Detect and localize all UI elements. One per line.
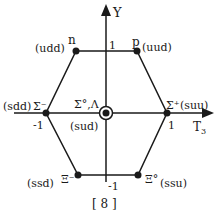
center-dot: [103, 110, 110, 117]
neutron-symbol: n: [68, 33, 76, 47]
xi-zero-symbol: Ξ°: [145, 173, 158, 186]
xi-minus-symbol: Ξ⁻: [61, 173, 75, 186]
tick-y-pos: 1: [109, 39, 116, 52]
y-axis-label: Y: [112, 5, 122, 20]
xi-minus-dot: [75, 172, 82, 179]
sigma-plus-symbol: Σ⁺: [166, 99, 180, 112]
tick-x-pos: 1: [168, 119, 175, 132]
sigma-zero-lambda-symbol: Σ°,Λ: [74, 98, 100, 111]
tick-y-neg: -1: [108, 180, 119, 193]
neutron-dot: [73, 48, 80, 55]
tick-x-neg: -1: [33, 119, 44, 132]
sigma-minus-symbol: Σ⁻: [33, 100, 47, 113]
sigma-plus-quarks: (suu): [180, 99, 208, 112]
xi-zero-dot: [135, 172, 142, 179]
sigma-minus-quarks: (sdd): [3, 100, 31, 113]
xi-minus-quarks: (ssd): [27, 177, 54, 190]
proton-quarks: (uud): [142, 41, 172, 54]
t3-axis-label: T3: [193, 120, 206, 136]
y-axis-arrow-icon: [101, 4, 111, 16]
proton-symbol: p: [132, 35, 140, 49]
sigma-zero-lambda-quarks: (sud): [70, 120, 98, 133]
neutron-quarks: (udd): [35, 42, 65, 55]
baryon-octet-diagram: Y T3 1 -1 1 -1 (udd) n p (uud) (sdd) Σ⁻ …: [0, 0, 221, 212]
xi-zero-quarks: (ssu): [160, 177, 187, 190]
diagram-caption: [ 8 ]: [92, 197, 117, 211]
